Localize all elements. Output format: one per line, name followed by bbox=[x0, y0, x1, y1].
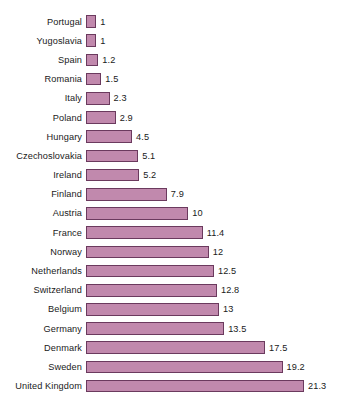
bar-area: 4.5 bbox=[86, 127, 342, 146]
bar-area: 19.2 bbox=[86, 357, 342, 376]
bar bbox=[86, 284, 217, 297]
bar bbox=[86, 322, 224, 335]
value-label: 7.9 bbox=[167, 189, 184, 199]
bar-area: 1 bbox=[86, 31, 342, 50]
category-label: Netherlands bbox=[0, 266, 86, 276]
bar-row: Netherlands12.5 bbox=[0, 261, 342, 280]
bar bbox=[86, 92, 110, 105]
category-label: Finland bbox=[0, 189, 86, 199]
bar bbox=[86, 380, 304, 393]
bar-row: Poland2.9 bbox=[0, 108, 342, 127]
bar bbox=[86, 169, 139, 182]
bar-row: United Kingdom21.3 bbox=[0, 377, 342, 396]
bar-area: 1.2 bbox=[86, 50, 342, 69]
bar bbox=[86, 111, 116, 124]
bar-row: Czechoslovakia5.1 bbox=[0, 146, 342, 165]
bar-row: Spain1.2 bbox=[0, 50, 342, 69]
bar-row: Finland7.9 bbox=[0, 185, 342, 204]
bar-row: Italy2.3 bbox=[0, 89, 342, 108]
value-label: 2.3 bbox=[110, 93, 127, 103]
bar-area: 12 bbox=[86, 242, 342, 261]
bar-area: 11.4 bbox=[86, 223, 342, 242]
value-label: 1 bbox=[96, 17, 105, 27]
category-label: Romania bbox=[0, 74, 86, 84]
category-label: Spain bbox=[0, 55, 86, 65]
category-label: Poland bbox=[0, 113, 86, 123]
bar-area: 13.5 bbox=[86, 319, 342, 338]
bar-area: 17.5 bbox=[86, 338, 342, 357]
category-label: Switzerland bbox=[0, 285, 86, 295]
value-label: 12 bbox=[209, 247, 223, 257]
bar-area: 10 bbox=[86, 204, 342, 223]
bar-area: 13 bbox=[86, 300, 342, 319]
bar bbox=[86, 246, 209, 259]
bar-row: Germany13.5 bbox=[0, 319, 342, 338]
bar bbox=[86, 15, 96, 28]
category-label: Yugoslavia bbox=[0, 36, 86, 46]
bar bbox=[86, 54, 98, 67]
bar bbox=[86, 73, 101, 86]
bar-row: Ireland5.2 bbox=[0, 166, 342, 185]
bar bbox=[86, 361, 283, 374]
category-label: United Kingdom bbox=[0, 381, 86, 391]
bar-row: Romania1.5 bbox=[0, 70, 342, 89]
bar-area: 7.9 bbox=[86, 185, 342, 204]
category-label: Denmark bbox=[0, 343, 86, 353]
category-label: Italy bbox=[0, 93, 86, 103]
category-label: Austria bbox=[0, 208, 86, 218]
bar-area: 12.5 bbox=[86, 261, 342, 280]
value-label: 19.2 bbox=[283, 362, 305, 372]
bar-row: Yugoslavia1 bbox=[0, 31, 342, 50]
bar bbox=[86, 207, 188, 220]
value-label: 1.5 bbox=[101, 74, 118, 84]
value-label: 12.5 bbox=[214, 266, 236, 276]
value-label: 17.5 bbox=[265, 343, 287, 353]
bar-area: 2.9 bbox=[86, 108, 342, 127]
value-label: 1.2 bbox=[98, 55, 115, 65]
category-label: Sweden bbox=[0, 362, 86, 372]
bar-row: Sweden19.2 bbox=[0, 357, 342, 376]
value-label: 12.8 bbox=[217, 285, 239, 295]
bar-area: 12.8 bbox=[86, 281, 342, 300]
bar-area: 5.1 bbox=[86, 146, 342, 165]
category-label: Germany bbox=[0, 324, 86, 334]
category-label: Belgium bbox=[0, 304, 86, 314]
value-label: 1 bbox=[96, 36, 105, 46]
bar-row: Switzerland12.8 bbox=[0, 281, 342, 300]
category-label: Czechoslovakia bbox=[0, 151, 86, 161]
value-label: 13.5 bbox=[224, 324, 246, 334]
value-label: 13 bbox=[219, 304, 233, 314]
bar-area: 5.2 bbox=[86, 166, 342, 185]
bar-row: Denmark17.5 bbox=[0, 338, 342, 357]
bar-row: Hungary4.5 bbox=[0, 127, 342, 146]
value-label: 5.2 bbox=[139, 170, 156, 180]
bar bbox=[86, 188, 167, 201]
bar bbox=[86, 130, 132, 143]
value-label: 10 bbox=[188, 208, 202, 218]
bar-area: 1.5 bbox=[86, 70, 342, 89]
category-label: Portugal bbox=[0, 17, 86, 27]
bar bbox=[86, 341, 265, 354]
bar-row: Austria10 bbox=[0, 204, 342, 223]
bar bbox=[86, 34, 96, 47]
bar-row: Belgium13 bbox=[0, 300, 342, 319]
bar bbox=[86, 303, 219, 316]
value-label: 11.4 bbox=[203, 228, 225, 238]
bar bbox=[86, 150, 138, 163]
value-label: 21.3 bbox=[304, 381, 326, 391]
category-label: France bbox=[0, 228, 86, 238]
bar-area: 1 bbox=[86, 12, 342, 31]
bar-area: 21.3 bbox=[86, 377, 342, 396]
bar bbox=[86, 226, 203, 239]
value-label: 4.5 bbox=[132, 132, 149, 142]
category-label: Norway bbox=[0, 247, 86, 257]
bar-row: Norway12 bbox=[0, 242, 342, 261]
category-label: Ireland bbox=[0, 170, 86, 180]
value-label: 2.9 bbox=[116, 113, 133, 123]
bar bbox=[86, 265, 214, 278]
category-label: Hungary bbox=[0, 132, 86, 142]
bar-area: 2.3 bbox=[86, 89, 342, 108]
value-label: 5.1 bbox=[138, 151, 155, 161]
bar-row: France11.4 bbox=[0, 223, 342, 242]
